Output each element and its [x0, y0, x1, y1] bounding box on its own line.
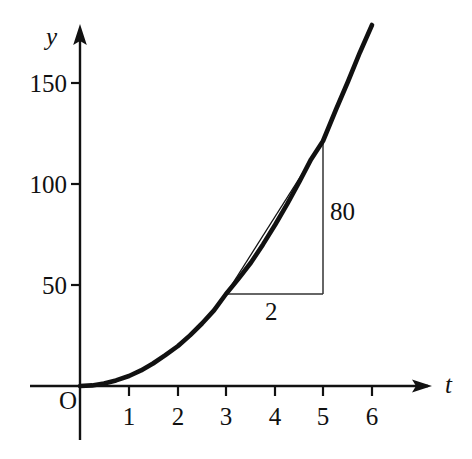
run-annotation-label: 2 — [265, 299, 278, 324]
graph-figure: y t O 150 100 50 1 2 3 4 5 6 80 2 — [0, 0, 472, 459]
x-tick-label-3: 3 — [212, 404, 240, 429]
x-axis-name-label: t — [445, 372, 452, 397]
y-tick-label-150: 150 — [13, 71, 67, 96]
x-tick-label-5: 5 — [309, 404, 337, 429]
rise-annotation-label: 80 — [330, 199, 355, 224]
x-tick-label-4: 4 — [261, 404, 289, 429]
y-axis-name-label: y — [46, 24, 57, 49]
x-tick-label-1: 1 — [115, 404, 143, 429]
origin-label: O — [59, 388, 77, 413]
y-tick-label-50: 50 — [13, 273, 67, 298]
x-tick-label-6: 6 — [358, 404, 386, 429]
y-tick-label-100: 100 — [13, 172, 67, 197]
curve-path — [80, 25, 372, 386]
x-tick-label-2: 2 — [164, 404, 192, 429]
